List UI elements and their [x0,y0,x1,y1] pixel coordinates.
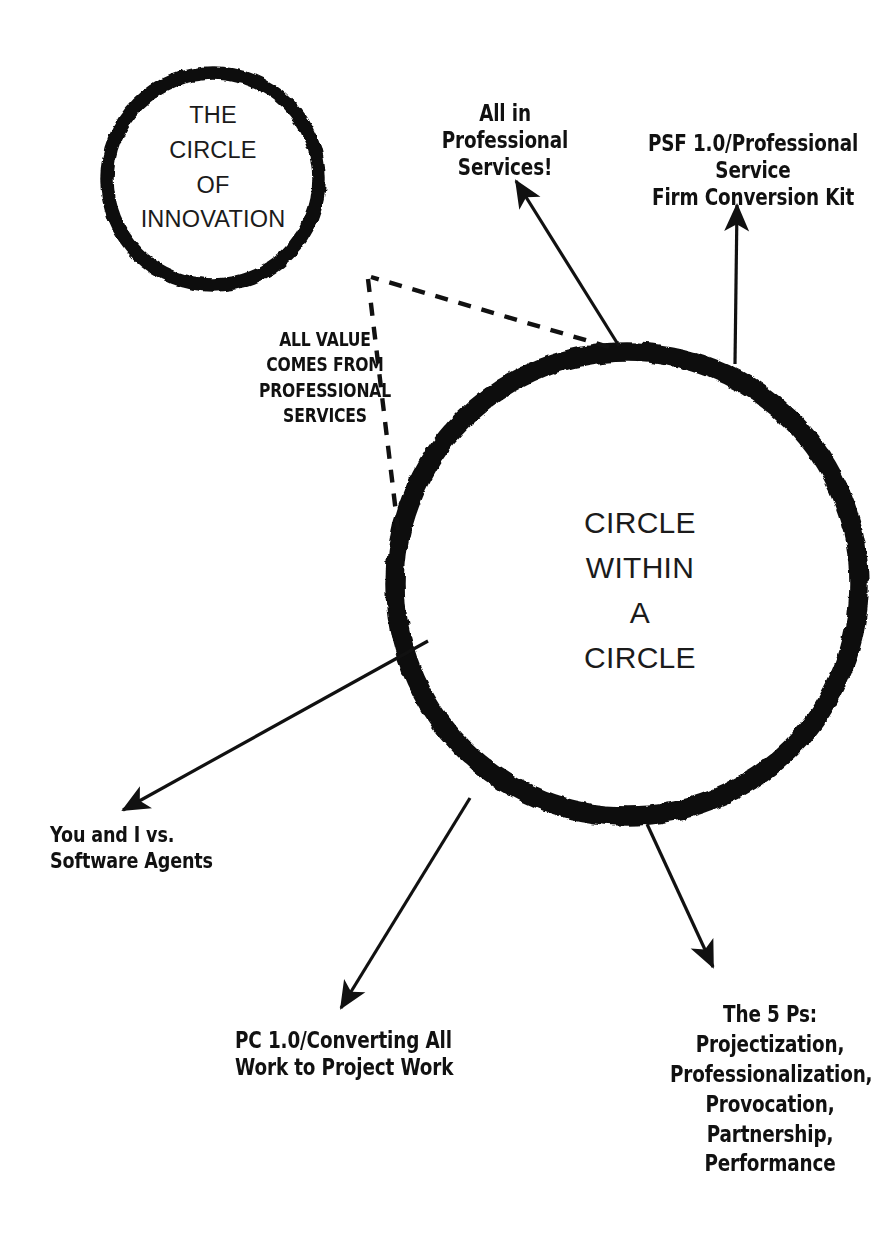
callout-you-and-i-vs-software-agents: You and I vs. Software Agents [50,822,250,874]
arrow-all-in-professional-services [516,181,619,346]
arrow-psf-kit [735,205,737,364]
callout-all-value-comes-from-professional-services: ALL VALUE COMES FROM PROFESSIONAL SERVIC… [253,327,397,428]
big-circle-label: CIRCLE WITHIN A CIRCLE [520,500,760,680]
dashed-connector-to-small-circle [371,277,609,347]
small-circle-label: THE CIRCLE OF INNOVATION [113,98,313,237]
arrow-you-and-i [123,641,428,810]
arrow-five-ps [647,824,713,967]
callout-the-five-ps: The 5 Ps: Projectization, Professionaliz… [670,1000,870,1179]
callout-all-in-professional-services: All in Professional Services! [421,100,589,181]
diagram-canvas: THE CIRCLE OF INNOVATION CIRCLE WITHIN A… [0,0,893,1242]
callout-pc-converting-all-work-to-project-work: PC 1.0/Converting All Work to Project Wo… [235,1027,467,1081]
arrow-pc-one-zero [341,798,470,1008]
callout-psf-conversion-kit: PSF 1.0/Professional Service Firm Conver… [621,130,885,211]
